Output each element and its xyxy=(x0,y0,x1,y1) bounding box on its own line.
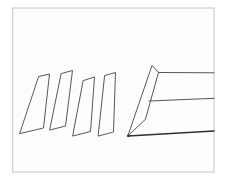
loaf-tip-point xyxy=(127,134,130,137)
sketch-canvas xyxy=(0,0,229,179)
drawing-frame xyxy=(13,8,214,172)
loaf-sketch-svg xyxy=(0,0,229,179)
